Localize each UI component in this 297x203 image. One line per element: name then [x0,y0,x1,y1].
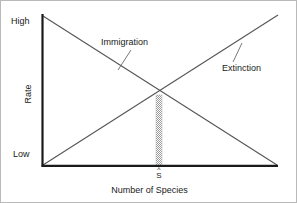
extinction-label: Extinction [222,63,261,73]
equilibrium-band [156,95,162,166]
immigration-leader-line [118,50,131,70]
species-equilibrium-figure: High Low Rate Immigration Extinction Num… [0,0,297,203]
extinction-leader-line [233,43,242,62]
immigration-label: Immigration [101,37,148,47]
y-axis-label: Rate [23,66,33,122]
y-axis-tick-high: High [11,16,30,26]
y-axis-tick-low: Low [13,149,30,159]
equilibrium-symbol: S [148,172,170,180]
x-axis-label: Number of Species [1,185,297,195]
equilibrium-species-label: ^ S [148,167,170,180]
